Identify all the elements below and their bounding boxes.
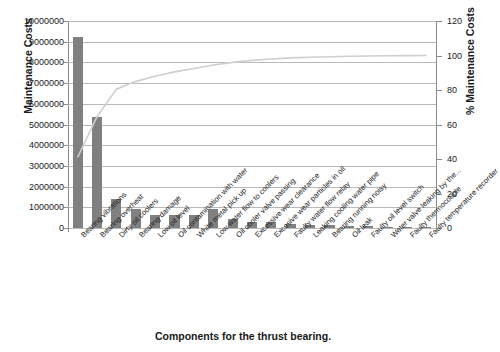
x-tickmark — [204, 228, 205, 232]
x-tickmark — [359, 228, 360, 232]
x-tickmark — [397, 228, 398, 232]
x-tickmark — [339, 228, 340, 232]
x-tickmark — [165, 228, 166, 232]
cumulative-line-path — [78, 56, 427, 158]
x-tickmark — [320, 228, 321, 232]
x-tickmark — [300, 228, 301, 232]
x-tickmark — [145, 228, 146, 232]
x-tickmark — [378, 228, 379, 232]
x-tickmark — [68, 228, 69, 232]
x-tickmark — [107, 228, 108, 232]
x-tickmark — [281, 228, 282, 232]
x-tickmark — [126, 228, 127, 232]
x-tickmark — [184, 228, 185, 232]
x-tickmark — [417, 228, 418, 232]
x-tickmark — [223, 228, 224, 232]
x-tickmark — [87, 228, 88, 232]
x-tickmark — [262, 228, 263, 232]
x-axis-category-labels: Bearing vibrationsBearing overheatDirty … — [0, 228, 486, 338]
x-tickmark — [436, 228, 437, 232]
x-tickmark — [242, 228, 243, 232]
